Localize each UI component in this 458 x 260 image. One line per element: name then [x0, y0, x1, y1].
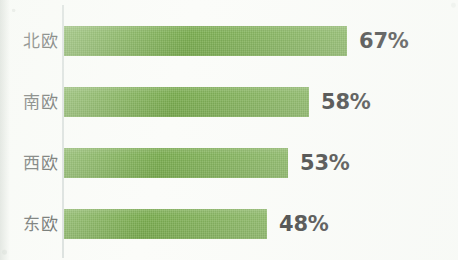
bar-track-0: 67%	[64, 26, 458, 56]
bar-2	[64, 148, 288, 178]
category-label-1: 南欧	[23, 94, 58, 111]
bar-chart-figure: 北欧 67% 南欧 58% 西欧 53% 东欧	[0, 0, 458, 260]
value-label-1: 58%	[321, 92, 371, 113]
bar-1	[64, 87, 309, 117]
value-label-0: 67%	[359, 31, 409, 52]
category-label-2: 西欧	[23, 155, 58, 172]
bar-track-3: 48%	[64, 209, 458, 239]
bar-row: 西欧 53%	[0, 148, 458, 178]
bar-track-2: 53%	[64, 148, 458, 178]
category-label-3: 东欧	[23, 216, 58, 233]
bar-3	[64, 209, 267, 239]
bar-row: 南欧 58%	[0, 87, 458, 117]
category-label-0: 北欧	[23, 33, 58, 50]
bar-row: 东欧 48%	[0, 209, 458, 239]
plot-area: 北欧 67% 南欧 58% 西欧 53% 东欧	[0, 0, 458, 260]
bar-0	[64, 26, 347, 56]
bar-track-1: 58%	[64, 87, 458, 117]
bar-row: 北欧 67%	[0, 26, 458, 56]
value-label-3: 48%	[279, 214, 329, 235]
value-label-2: 53%	[300, 153, 350, 174]
